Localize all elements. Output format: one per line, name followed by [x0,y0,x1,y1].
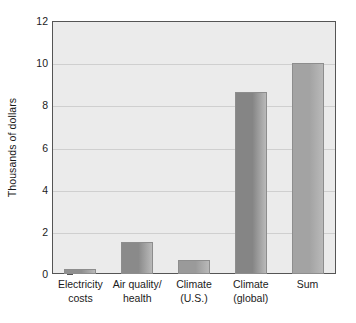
y-tick-label: 4 [28,184,48,196]
x-axis-label-line: (global) [222,292,279,306]
y-tick-mark [67,274,73,275]
x-axis-label-line: Sum [279,278,336,292]
x-axis-labels: ElectricitycostsAir quality/healthClimat… [52,278,336,320]
plot-area [52,21,336,274]
y-axis-ticks: 121086420 [22,0,48,323]
y-tick-label: 10 [28,57,48,69]
x-axis-label-line: Climate [166,278,223,292]
y-tick-label: 12 [28,15,48,27]
y-tick-label: 0 [28,268,48,280]
x-axis-label: Air quality/health [109,278,166,320]
y-axis-title: Thousands of dollars [2,21,22,274]
gridline [53,191,335,192]
x-axis-label-line: Electricity [52,278,109,292]
y-tick-label: 8 [28,99,48,111]
x-axis-label-line: Climate [222,278,279,292]
gridline [53,106,335,107]
gridline [53,64,335,65]
x-axis-label-line: health [109,292,166,306]
x-axis-label: Climate(U.S.) [166,278,223,320]
y-tick-label: 2 [28,226,48,238]
x-axis-label-line: costs [52,292,109,306]
y-tick-label: 6 [28,142,48,154]
x-axis-label: Sum [279,278,336,320]
bar-chart: Thousands of dollars 121086420 Electrici… [0,0,356,323]
x-axis-label-line: (U.S.) [166,292,223,306]
gridline [53,233,335,234]
x-axis-label-line: Air quality/ [109,278,166,292]
gridline [53,149,335,150]
x-axis-label: Climate(global) [222,278,279,320]
x-axis-label: Electricitycosts [52,278,109,320]
